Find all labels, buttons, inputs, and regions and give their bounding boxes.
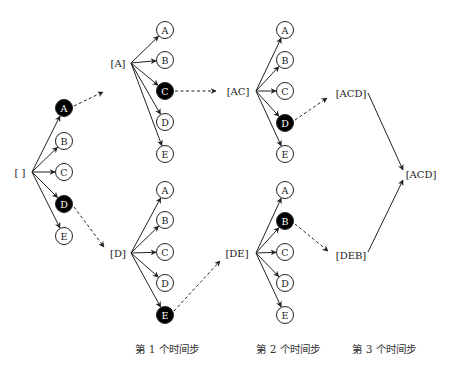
token-label: D xyxy=(281,278,289,289)
token-label: D xyxy=(281,118,289,129)
token-node-b: B xyxy=(277,52,294,69)
token-label: D xyxy=(161,117,169,128)
beam-selection-arrow xyxy=(295,224,328,251)
expansion-arrow xyxy=(256,228,279,253)
expansion-arrow xyxy=(131,253,161,307)
token-label: E xyxy=(162,310,169,321)
token-node-a: A xyxy=(277,182,294,199)
token-node-c: C xyxy=(277,244,294,261)
expansion-arrow xyxy=(32,147,58,172)
token-node-c: C xyxy=(277,83,294,100)
time-step-label-3: 第 3 个时间步 xyxy=(352,343,415,355)
token-node-a: A xyxy=(157,22,174,39)
expansion-arrow xyxy=(131,226,159,253)
state-final: [ACD] xyxy=(406,169,437,180)
time-step-label-2: 第 2 个时间步 xyxy=(256,343,319,355)
token-node-b: B xyxy=(157,52,174,69)
token-node-e: E xyxy=(56,228,73,245)
token-label: E xyxy=(282,310,289,321)
beam-selection-arrow xyxy=(74,92,103,106)
expansion-arrow xyxy=(256,253,279,277)
expansion-arrow xyxy=(131,61,156,63)
token-node-b: B xyxy=(277,213,294,230)
token-label: A xyxy=(60,103,68,114)
token-node-d: D xyxy=(157,275,174,292)
beam-selection-arrow xyxy=(74,207,104,247)
token-node-e: E xyxy=(277,307,294,324)
token-label: E xyxy=(61,231,68,242)
state-deb: [DEB] xyxy=(336,250,367,261)
token-label: C xyxy=(161,86,168,97)
token-node-d: D xyxy=(277,115,294,132)
token-label: B xyxy=(162,215,169,226)
final-selection-arrow xyxy=(368,180,403,252)
token-label: B xyxy=(162,55,169,66)
token-node-c: C xyxy=(157,244,174,261)
token-node-d: D xyxy=(277,275,294,292)
token-node-a: A xyxy=(56,100,73,117)
token-label: A xyxy=(281,185,289,196)
token-node-e: E xyxy=(157,146,174,163)
state-a: [A] xyxy=(110,58,125,69)
token-label: C xyxy=(60,167,67,178)
token-label: C xyxy=(281,86,288,97)
expansion-arrow xyxy=(131,253,158,277)
token-label: A xyxy=(161,185,169,196)
token-node-a: A xyxy=(277,22,294,39)
expansion-arrow xyxy=(256,252,276,253)
expansion-arrow xyxy=(32,172,58,198)
beam-search-diagram: ABCDEABCDEABCDEABCDEABCDE [ ][A][D][AC][… xyxy=(0,0,450,372)
token-node-e: E xyxy=(277,146,294,163)
time-step-labels: 第 1 个时间步第 2 个时间步第 3 个时间步 xyxy=(135,343,415,355)
token-label: D xyxy=(161,278,169,289)
expansion-arrow xyxy=(131,36,159,63)
token-label: A xyxy=(281,25,289,36)
beam-selection-arrow xyxy=(174,261,220,311)
expansion-arrow xyxy=(131,252,156,253)
expansion-arrow xyxy=(131,63,161,114)
token-node-b: B xyxy=(56,133,73,150)
token-node-c: C xyxy=(56,164,73,181)
state-ac: [AC] xyxy=(227,86,250,97)
token-label: C xyxy=(161,247,168,258)
token-label: E xyxy=(162,149,169,160)
token-nodes: ABCDEABCDEABCDEABCDEABCDE xyxy=(56,22,294,324)
expansion-arrow xyxy=(256,91,279,116)
token-node-b: B xyxy=(157,212,174,229)
token-label: E xyxy=(282,149,289,160)
expansion-arrow xyxy=(256,67,279,91)
state-acd: [ACD] xyxy=(336,88,367,99)
token-node-a: A xyxy=(157,182,174,199)
expansion-arrow xyxy=(32,172,60,228)
beam-selection-arrow xyxy=(295,98,327,120)
final-selection-arrow xyxy=(368,93,403,170)
beam-states: [ ][A][D][AC][DE][ACD][DEB][ACD] xyxy=(15,58,437,261)
state-d: [D] xyxy=(110,248,126,259)
token-label: B xyxy=(282,55,289,66)
token-node-d: D xyxy=(56,196,73,213)
token-label: B xyxy=(282,216,289,227)
token-node-e: E xyxy=(157,307,174,324)
state-root: [ ] xyxy=(15,167,26,178)
edges xyxy=(32,36,403,311)
token-node-c: C xyxy=(157,83,174,100)
token-label: B xyxy=(61,136,68,147)
token-label: D xyxy=(60,199,68,210)
state-de: [DE] xyxy=(225,248,248,259)
token-label: C xyxy=(281,247,288,258)
time-step-label-1: 第 1 个时间步 xyxy=(135,343,198,355)
token-node-d: D xyxy=(157,114,174,131)
token-label: A xyxy=(161,25,169,36)
expansion-arrow xyxy=(131,198,161,253)
